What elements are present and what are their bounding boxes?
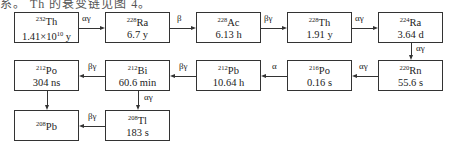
arrowhead-left-icon xyxy=(79,74,84,78)
node-po216: 216Po 0.16 s xyxy=(287,60,352,91)
arrow-bi212-tl208 xyxy=(138,91,139,105)
arrowhead-right-icon xyxy=(191,26,196,30)
half-life: 55.6 s xyxy=(398,77,423,89)
nuclide-label: 212Bi xyxy=(128,62,148,77)
arrow-ra224-rn220 xyxy=(411,43,412,55)
decay-label: βγ xyxy=(264,13,273,23)
node-po212: 212Po 304 ns xyxy=(14,60,79,91)
arrow-ra228-ac228 xyxy=(170,28,191,29)
arrow-tl208-pb208 xyxy=(84,126,105,127)
node-th232: 232Th 1.41×1010 y xyxy=(14,12,79,43)
decay-label: βγ xyxy=(88,61,97,71)
node-ac228: 228Ac 6.13 h xyxy=(196,12,261,43)
arrow-rn220-po216 xyxy=(357,76,378,77)
node-tl208: 208Tl 183 s xyxy=(105,110,170,141)
node-pb212: 212Pb 10.64 h xyxy=(196,60,261,91)
arrow-pb212-bi212 xyxy=(175,76,196,77)
decay-label: α xyxy=(272,61,277,71)
half-life: 6.13 h xyxy=(215,29,241,41)
arrow-po216-pb212 xyxy=(266,76,287,77)
half-life: 0.16 s xyxy=(307,77,332,89)
nuclide-label: 228Ac xyxy=(218,14,240,29)
node-ra224: 224Ra 3.64 d xyxy=(378,12,443,43)
decay-label: αγ xyxy=(144,92,153,102)
nuclide-label: 208Tl xyxy=(128,112,147,127)
node-rn220: 220Rn 55.6 s xyxy=(378,60,443,91)
nuclide-label: 232Th xyxy=(36,13,57,28)
nuclide-label: 220Rn xyxy=(399,62,421,77)
arrow-po212-pb208 xyxy=(47,91,48,105)
arrowhead-right-icon xyxy=(373,26,378,30)
arrowhead-left-icon xyxy=(261,74,266,78)
nuclide-label: 212Po xyxy=(36,62,57,77)
arrowhead-right-icon xyxy=(282,26,287,30)
decay-label: αγ xyxy=(82,13,91,23)
arrowhead-right-icon xyxy=(100,26,105,30)
nuclide-label: 212Pb xyxy=(218,62,239,77)
decay-label: βγ xyxy=(179,61,188,71)
node-th228: 228Th 1.91 y xyxy=(287,12,352,43)
arrow-th232-ra228 xyxy=(79,28,100,29)
decay-label: βγ xyxy=(88,111,97,121)
half-life: 60.6 min xyxy=(119,77,156,89)
half-life: 304 ns xyxy=(33,77,61,89)
nuclide-label: 228Th xyxy=(309,14,330,29)
arrow-ac228-th228 xyxy=(261,28,282,29)
decay-label: αγ xyxy=(359,61,368,71)
decay-label: αγ xyxy=(355,13,364,23)
decay-label: β xyxy=(177,13,182,23)
arrowhead-left-icon xyxy=(170,74,175,78)
nuclide-label: 216Po xyxy=(309,62,330,77)
nuclide-label: 208Pb xyxy=(36,118,57,133)
half-life: 1.41×1010 y xyxy=(22,28,71,43)
arrowhead-left-icon xyxy=(79,124,84,128)
node-ra228: 228Ra 6.7 y xyxy=(105,12,170,43)
decay-label: αγ xyxy=(416,43,425,53)
arrow-th228-ra224 xyxy=(352,28,373,29)
nuclide-label: 228Ra xyxy=(127,14,148,29)
node-bi212: 212Bi 60.6 min xyxy=(105,60,170,91)
caption-text: 系。 Th 的衰变链见图 4。 xyxy=(0,0,151,12)
half-life: 6.7 y xyxy=(127,29,148,41)
node-pb208: 208Pb xyxy=(14,110,79,141)
half-life: 1.91 y xyxy=(306,29,332,41)
arrowhead-left-icon xyxy=(352,74,357,78)
half-life: 183 s xyxy=(126,127,148,139)
nuclide-label: 224Ra xyxy=(400,14,421,29)
arrow-bi212-po212 xyxy=(84,76,105,77)
half-life: 10.64 h xyxy=(213,77,245,89)
half-life: 3.64 d xyxy=(397,29,423,41)
